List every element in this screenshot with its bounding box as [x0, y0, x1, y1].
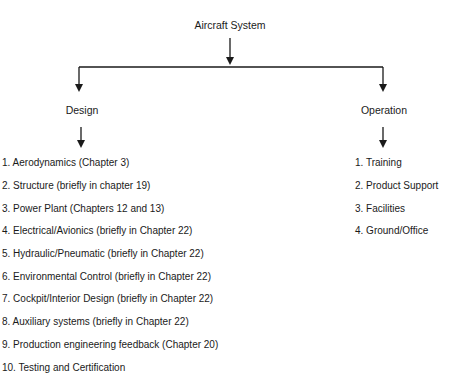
design-list-item: 3. Power Plant (Chapters 12 and 13) — [2, 203, 164, 215]
operation-list-arrow-icon — [379, 127, 387, 148]
design-list-item: 4. Electrical/Avionics (briefly in Chapt… — [2, 225, 192, 237]
design-list-item: 9. Production engineering feedback (Chap… — [2, 339, 218, 351]
design-list-arrow-icon — [77, 127, 85, 148]
design-list-item: 2. Structure (briefly in chapter 19) — [2, 180, 150, 192]
design-list-item: 6. Environmental Control (briefly in Cha… — [2, 271, 211, 283]
operation-node-label: Operation — [361, 104, 407, 116]
root-node-label: Aircraft System — [194, 19, 265, 31]
design-list-item: 5. Hydraulic/Pneumatic (briefly in Chapt… — [2, 248, 204, 260]
operation-list-item: 4. Ground/Office — [355, 225, 428, 237]
design-list-item: 7. Cockpit/Interior Design (briefly in C… — [2, 293, 213, 305]
design-list-item: 1. Aerodynamics (Chapter 3) — [2, 157, 129, 169]
operation-list-item: 2. Product Support — [355, 180, 438, 192]
root-down-arrow-icon — [226, 38, 234, 65]
operation-list-item: 1. Training — [355, 157, 402, 169]
operation-down-arrow-icon — [379, 67, 387, 92]
operation-list-item: 3. Facilities — [355, 203, 405, 215]
design-list-item: 8. Auxiliary systems (briefly in Chapter… — [2, 316, 189, 328]
design-list-item: 10. Testing and Certification — [2, 362, 125, 374]
design-node-label: Design — [66, 104, 99, 116]
design-down-arrow-icon — [75, 67, 83, 92]
